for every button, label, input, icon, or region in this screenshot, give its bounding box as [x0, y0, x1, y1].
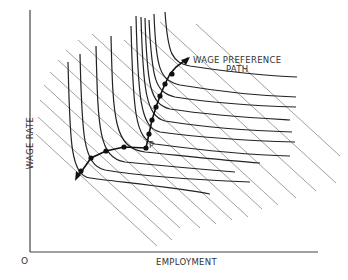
- point-p-label: P: [149, 141, 154, 150]
- indifference-curves: [68, 12, 297, 194]
- x-axis-label: EMPLOYMENT: [156, 257, 217, 267]
- wage-preference-path-label: WAGE PREFERENCE PATH: [193, 56, 281, 74]
- point-p: [143, 145, 148, 150]
- path-label-line2: PATH: [193, 65, 281, 74]
- wage-preference-diagram: [0, 0, 348, 280]
- y-axis-label: WAGE RATE: [25, 117, 35, 169]
- diagonal-lines: [36, 22, 340, 246]
- origin-label: O: [21, 256, 28, 266]
